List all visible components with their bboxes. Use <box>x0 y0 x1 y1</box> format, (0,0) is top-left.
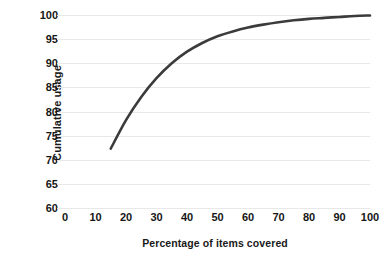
y-tick-label: 85 <box>28 82 58 93</box>
series-path <box>111 15 370 148</box>
cumulative-usage-line-chart: Cumulative usage 1009590858075706560 010… <box>0 0 389 263</box>
y-tick-label: 70 <box>28 155 58 166</box>
series-line-cumulative-usage <box>65 15 370 208</box>
gridline <box>57 208 370 209</box>
y-tick-label: 90 <box>28 58 58 69</box>
x-axis-tick-labels: 0102030405060708090100 <box>65 212 370 228</box>
plot-area <box>65 15 370 208</box>
y-tick-label: 80 <box>28 107 58 118</box>
y-tick-label: 100 <box>28 10 58 21</box>
y-tick-label: 95 <box>28 34 58 45</box>
x-axis-title: Percentage of items covered <box>55 237 375 249</box>
y-tick-label: 75 <box>28 131 58 142</box>
x-tick-label: 100 <box>350 212 389 223</box>
y-tick-label: 65 <box>28 179 58 190</box>
y-axis-tick-labels: 1009590858075706560 <box>28 15 58 208</box>
